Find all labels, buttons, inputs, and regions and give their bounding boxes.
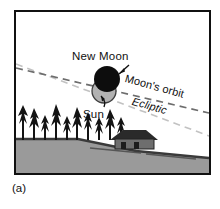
diagram-frame: New Moon Sun Moon's orbit Ecliptic [14,10,211,175]
figure-panel-a: New Moon Sun Moon's orbit Ecliptic (a) [0,0,220,209]
label-new-moon: New Moon [72,50,129,62]
label-sun: Sun [83,108,104,120]
new-moon-disc [94,66,120,92]
figure-caption: (a) [12,182,26,194]
